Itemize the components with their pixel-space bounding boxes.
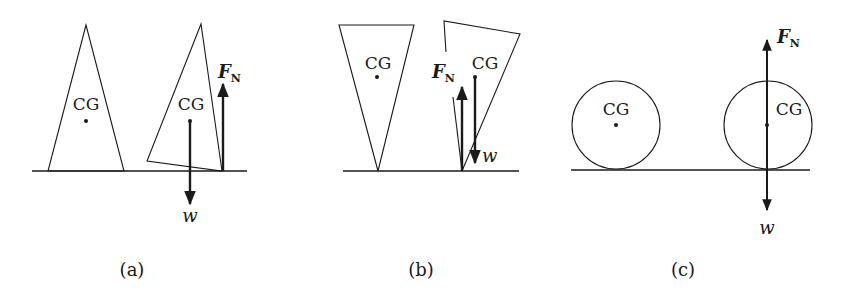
cg-label: CG [776, 99, 803, 119]
cg-label: CG [365, 53, 392, 73]
normal-force-label: FN [431, 61, 455, 85]
panel-c: CG CG FN w (c) [571, 26, 812, 280]
weight-label: w [482, 145, 498, 166]
cg-dot [614, 123, 618, 127]
weight-label: w [759, 217, 775, 238]
caption: (c) [671, 259, 695, 280]
cg-label: CG [73, 94, 100, 114]
inverted-triangle [339, 25, 414, 171]
cg-label: CG [178, 94, 205, 114]
weight-label: w [182, 205, 198, 226]
normal-force-label: FN [217, 61, 241, 85]
cg-label: CG [603, 99, 630, 119]
panel-a: CG CG w FN (a) [32, 24, 247, 280]
tilted-triangle-left-edge [453, 97, 462, 171]
cg-dot [84, 119, 88, 123]
stability-diagram: CG CG w FN (a) CG CG w FN (b) CG CG [0, 0, 842, 303]
caption: (a) [120, 259, 145, 280]
caption: (b) [408, 259, 434, 280]
panel-b: CG CG w FN (b) [339, 21, 520, 280]
cg-dot [375, 75, 379, 79]
cg-label: CG [472, 53, 499, 73]
normal-force-label: FN [776, 26, 800, 50]
